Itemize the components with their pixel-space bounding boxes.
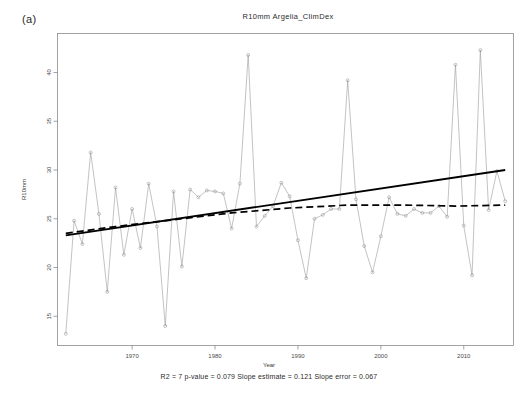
x-tick-label: 2010 — [457, 353, 471, 359]
x-tick-label: 1980 — [208, 353, 222, 359]
y-axis-title: R10mm — [21, 179, 27, 200]
x-tick-label: 2000 — [374, 353, 388, 359]
y-tick-label: 20 — [46, 264, 52, 271]
series-polyline — [66, 50, 505, 334]
y-tick-label: 30 — [46, 166, 52, 173]
y-tick-label: 40 — [46, 69, 52, 76]
data-series-observed — [64, 49, 506, 336]
smoothed-trend-line — [66, 205, 505, 233]
x-tick-label: 1990 — [291, 353, 305, 359]
x-axis-ticks: 19701980199020002010 — [125, 346, 471, 359]
linear-trend-line — [66, 170, 505, 235]
series-markers — [64, 49, 506, 336]
chart-plot: 152025303540 19701980199020002010 R10mm — [0, 0, 526, 394]
y-tick-label: 15 — [46, 312, 52, 319]
x-tick-label: 1970 — [125, 353, 139, 359]
stats-caption: R2 = 7 p-value = 0.079 Slope estimate = … — [0, 373, 526, 380]
y-tick-label: 35 — [46, 117, 52, 124]
y-axis-ticks: 152025303540 — [46, 69, 57, 320]
x-axis-title: Year — [0, 362, 526, 368]
figure-container: (a) R10mm Argelia_ClimDex 152025303540 1… — [0, 0, 526, 394]
y-tick-label: 25 — [46, 215, 52, 222]
